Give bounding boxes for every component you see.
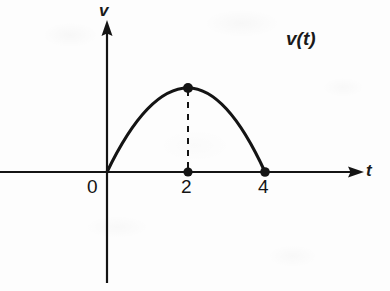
tick-label-t4: 4 bbox=[258, 176, 269, 198]
tick-label-t2: 2 bbox=[181, 176, 192, 198]
peak-point-marker bbox=[183, 83, 193, 93]
tick-label-origin: 0 bbox=[87, 176, 98, 198]
figure-page: v t v(t) 0 2 4 bbox=[0, 0, 390, 291]
velocity-curve bbox=[107, 88, 265, 172]
curve-label: v(t) bbox=[286, 28, 316, 50]
y-axis-label: v bbox=[99, 1, 108, 21]
velocity-time-graph bbox=[0, 0, 390, 291]
x-axis-label: t bbox=[366, 161, 372, 181]
